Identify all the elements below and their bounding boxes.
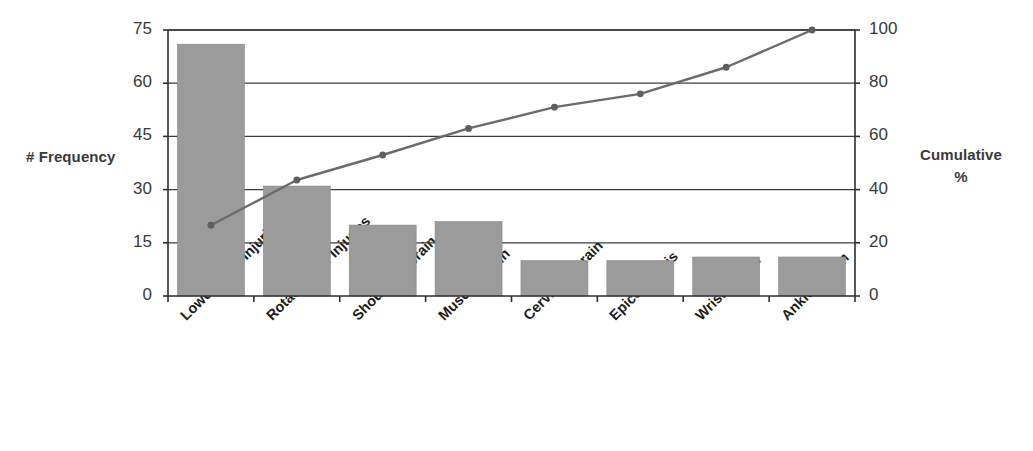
bar[interactable] bbox=[607, 261, 674, 296]
bars-group bbox=[177, 44, 845, 296]
bar[interactable] bbox=[693, 257, 760, 296]
cumulative-marker[interactable] bbox=[293, 177, 300, 184]
bar[interactable] bbox=[349, 225, 416, 296]
pareto-chart: # Frequency Cumulative % 015304560750204… bbox=[0, 0, 1033, 451]
cumulative-marker[interactable] bbox=[465, 125, 472, 132]
bar[interactable] bbox=[779, 257, 846, 296]
cumulative-marker[interactable] bbox=[809, 27, 816, 34]
cumulative-marker[interactable] bbox=[723, 64, 730, 71]
cumulative-marker[interactable] bbox=[551, 104, 558, 111]
bar[interactable] bbox=[263, 186, 330, 296]
bar[interactable] bbox=[521, 261, 588, 296]
cumulative-marker[interactable] bbox=[208, 222, 215, 229]
bar[interactable] bbox=[435, 222, 502, 296]
plot-area bbox=[0, 0, 1033, 451]
cumulative-marker[interactable] bbox=[379, 152, 386, 159]
bar[interactable] bbox=[177, 44, 244, 296]
cumulative-marker[interactable] bbox=[637, 90, 644, 97]
